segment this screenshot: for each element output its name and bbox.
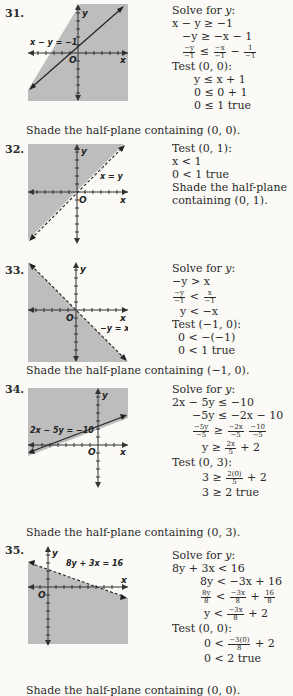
origin-label: O xyxy=(69,55,77,65)
origin-label: O xyxy=(66,313,74,323)
step: Test (0, 0): xyxy=(172,622,282,635)
axis-x-label: x xyxy=(119,195,127,205)
origin-label: O xyxy=(38,590,46,600)
problem-number: 35. xyxy=(5,544,24,557)
line-label: x − y = −1 xyxy=(29,38,77,47)
step: −5y ≤ −2x − 10 xyxy=(172,409,283,422)
step: Shade the half-plane xyxy=(172,181,287,194)
step: Test (0, 1): xyxy=(172,142,287,155)
conclusion: Shade the half-plane containing (0, 0). xyxy=(26,684,240,696)
step: containing (0, 1). xyxy=(172,194,287,207)
graph-32: x = y y x O xyxy=(28,144,128,244)
step: 0 < 2 true xyxy=(172,652,282,665)
problem-number: 32. xyxy=(5,143,24,156)
step: Test (0, 0): xyxy=(172,60,257,73)
step-fraction: 8y8 < −3x8 + 168 xyxy=(172,588,282,605)
step: 0 ≤ 0 + 1 xyxy=(172,86,257,99)
step: −y ≥ −x − 1 xyxy=(172,30,257,43)
line-label: −y = x xyxy=(100,324,128,333)
step-fraction: −5y−5 ≥ −2x−5 −10−5 xyxy=(172,422,283,439)
step-fraction: 3 ≥ 2(0)5 + 2 xyxy=(172,469,283,486)
step: 8y + 3x < 16 xyxy=(172,562,282,575)
line-label: 8y + 3x = 16 xyxy=(66,559,124,568)
step: 8y < −3x + 16 xyxy=(172,575,282,588)
solution-steps-31: Solve for y: x − y ≥ −1 −y ≥ −x − 1 −y−1… xyxy=(172,4,257,112)
solution-steps-33: Solve for y: −y > x −y−1 < x−1 y < −x Te… xyxy=(172,262,241,357)
line-label: x = y xyxy=(99,172,123,181)
axis-y-label: y xyxy=(52,548,59,558)
graph-35: 8y + 3x = 16 y x O xyxy=(28,546,128,646)
axis-x-label: x xyxy=(119,313,127,323)
step: x − y ≥ −1 xyxy=(172,17,257,30)
axis-x-label: x xyxy=(120,575,128,585)
step: −y > x xyxy=(172,275,241,288)
line-label: 2x − 5y = −10 xyxy=(30,426,94,435)
axis-x-label: x xyxy=(119,55,127,65)
step-fraction: y < −3x8 + 2 xyxy=(172,605,282,622)
origin-label: O xyxy=(79,195,87,205)
step: 3 ≥ 2 true xyxy=(172,486,283,499)
conclusion: Shade the half-plane containing (0, 0). xyxy=(26,124,240,137)
step-fraction: y ≥ 2x5 + 2 xyxy=(172,439,283,456)
solution-steps-32: Test (0, 1): x < 1 0 < 1 true Shade the … xyxy=(172,142,287,207)
conclusion: Shade the half-plane containing (−1, 0). xyxy=(26,364,249,377)
step: x < 1 xyxy=(172,155,287,168)
shaded-region xyxy=(28,388,128,456)
step: Solve for y: xyxy=(172,549,282,562)
step-fraction: −y−1 < x−1 xyxy=(172,288,241,305)
step: Solve for y: xyxy=(172,4,257,17)
graph-31: x − y = −1 y x O xyxy=(28,4,128,101)
solution-steps-35: Solve for y: 8y + 3x < 16 8y < −3x + 16 … xyxy=(172,549,282,665)
step-fraction: 0 < −3(0)8 + 2 xyxy=(172,635,282,652)
shaded-region xyxy=(28,563,128,644)
solution-steps-34: Solve for y: 2x − 5y ≤ −10 −5y ≤ −2x − 1… xyxy=(172,383,283,499)
step: y ≤ x + 1 xyxy=(172,73,257,86)
problem-number: 34. xyxy=(5,383,24,396)
conclusion: Shade the half-plane containing (0, 3). xyxy=(26,526,240,539)
graph-34: 2x − 5y = −10 y x O xyxy=(28,388,128,488)
step-fraction: −y−1 ≤ −x−1 − 1−1 xyxy=(172,43,257,60)
graph-33: −y = x y x O xyxy=(28,262,128,362)
step: 0 ≤ 1 true xyxy=(172,99,257,112)
step: Solve for y: xyxy=(172,383,283,396)
step: Solve for y: xyxy=(172,262,241,275)
step: y < −x xyxy=(172,305,241,318)
step: 2x − 5y ≤ −10 xyxy=(172,396,283,409)
step: 0 < −(−1) xyxy=(172,331,241,344)
problem-number: 31. xyxy=(5,7,24,20)
step: 0 < 1 true xyxy=(172,168,287,181)
step: 0 < 1 true xyxy=(172,344,241,357)
axis-x-label: x xyxy=(119,447,127,457)
axis-y-label: y xyxy=(80,264,87,274)
step: Test (0, 3): xyxy=(172,456,283,469)
step: Test (−1, 0): xyxy=(172,318,241,331)
problem-number: 33. xyxy=(5,264,24,277)
origin-label: O xyxy=(88,447,96,457)
